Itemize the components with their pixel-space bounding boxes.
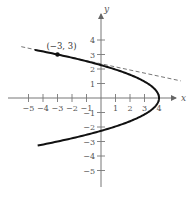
svg-text:−2: −2 [66, 104, 78, 113]
svg-text:3: 3 [142, 104, 147, 113]
svg-text:−3: −3 [52, 104, 64, 113]
y-axis-label: y [103, 4, 110, 14]
svg-text:−2: −2 [83, 123, 95, 132]
x-axis-label: x [181, 93, 186, 103]
svg-text:−5: −5 [83, 167, 95, 176]
svg-text:2: 2 [90, 65, 95, 74]
point-label: (−3, 3) [47, 41, 77, 51]
svg-text:2: 2 [127, 104, 132, 113]
svg-text:4: 4 [90, 36, 95, 45]
point-marker [55, 52, 59, 56]
svg-text:1: 1 [90, 80, 95, 89]
svg-text:−5: −5 [23, 104, 35, 113]
svg-text:1: 1 [113, 104, 118, 113]
svg-text:3: 3 [90, 51, 95, 60]
svg-text:−4: −4 [83, 152, 95, 161]
svg-text:−1: −1 [83, 109, 95, 118]
svg-text:−4: −4 [37, 104, 49, 113]
chart: −5−4−3−2−11234 −5−4−3−2−11234 x y (−3, 3… [0, 0, 195, 202]
svg-text:−3: −3 [83, 138, 95, 147]
